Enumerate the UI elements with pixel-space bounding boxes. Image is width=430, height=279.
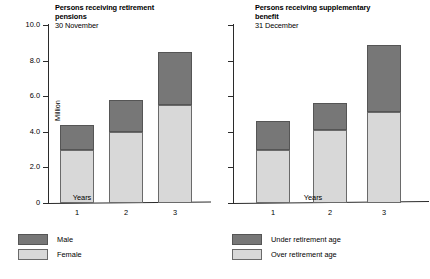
legend-swatch-female <box>18 249 48 260</box>
y-tick-4: 4.0 <box>43 132 48 133</box>
y-tick-2: 2.0 <box>43 167 48 168</box>
y-tick-6: 6.0 <box>43 96 48 97</box>
y-tick-right-8 <box>228 61 233 62</box>
x-axis-title-left: Years <box>52 193 112 202</box>
legend-swatch-over-retirement-age <box>232 249 262 260</box>
x-tick-label-3: 3 <box>367 208 401 217</box>
x-axis-title-right: Years <box>283 193 343 202</box>
bar-segment-male-1 <box>60 125 94 150</box>
y-tick-right-6 <box>228 96 233 97</box>
chart-panel-supplementary-benefit: Persons receiving supplementary benefit … <box>215 0 430 232</box>
legend-label-female: Female <box>57 250 82 259</box>
plot-area-right: 1 2 3 <box>233 25 423 203</box>
legend-swatch-under-retirement-age <box>232 234 262 245</box>
plot-area-left: Million 10.0 8.0 6.0 4.0 2.0 0 <box>48 25 208 203</box>
y-axis-line-right <box>233 24 234 204</box>
legend-item-female: Female <box>18 247 82 262</box>
legend-item-male: Male <box>18 232 82 247</box>
bar-segment-male-2 <box>109 100 143 132</box>
y-tick-right-10 <box>228 25 233 26</box>
y-tick-label-8: 8.0 <box>30 56 40 65</box>
y-tick-label-4: 4.0 <box>30 127 40 136</box>
y-tick-label-2: 2.0 <box>30 162 40 171</box>
bar-segment-over-retirement-3 <box>367 112 401 203</box>
y-axis-line-left <box>48 24 49 204</box>
bar-segment-under-retirement-3 <box>367 45 401 113</box>
x-tick-label-2: 2 <box>109 208 143 217</box>
y-tick-8: 8.0 <box>43 61 48 62</box>
legend-swatch-male <box>18 234 48 245</box>
legend-label-under-retirement-age: Under retirement age <box>271 235 341 244</box>
bar-segment-female-2 <box>109 132 143 203</box>
legend-left: Male Female <box>18 232 82 262</box>
y-tick-right-2 <box>228 167 233 168</box>
x-tick-label-1: 1 <box>60 208 94 217</box>
figure: Persons receiving retirement pensions 30… <box>0 0 430 279</box>
chart-title-right-line1: Persons receiving supplementary <box>255 4 427 13</box>
y-tick-label-0: 0 <box>36 198 40 207</box>
y-tick-label-10: 10.0 <box>26 20 40 29</box>
bar-segment-female-3 <box>158 105 192 203</box>
chart-title-right-line2: benefit <box>255 13 427 22</box>
x-tick-label-3: 3 <box>158 208 192 217</box>
y-axis-title-left: Million <box>53 100 62 121</box>
chart-panel-retirement-pensions: Persons receiving retirement pensions 30… <box>0 0 215 232</box>
legend-label-over-retirement-age: Over retirement age <box>271 250 337 259</box>
y-tick-0: 0 <box>43 203 48 204</box>
bar-segment-under-retirement-1 <box>256 121 290 150</box>
y-tick-right-0 <box>228 203 233 204</box>
y-tick-label-6: 6.0 <box>30 91 40 100</box>
chart-title-left-line2: pensions <box>55 13 205 22</box>
legend-item-over-retirement-age: Over retirement age <box>232 247 341 262</box>
legend-right: Under retirement age Over retirement age <box>232 232 341 262</box>
y-tick-right-4 <box>228 132 233 133</box>
y-tick-10: 10.0 <box>43 25 48 26</box>
legend-item-under-retirement-age: Under retirement age <box>232 232 341 247</box>
bar-segment-under-retirement-2 <box>313 103 347 130</box>
bar-segment-male-3 <box>158 52 192 105</box>
legend-label-male: Male <box>57 235 73 244</box>
x-tick-label-2: 2 <box>313 208 347 217</box>
x-tick-label-1: 1 <box>256 208 290 217</box>
